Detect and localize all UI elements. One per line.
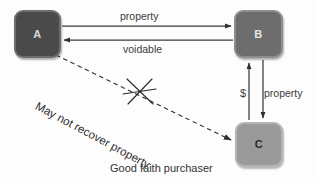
edge-label-property-top: property [120,11,159,22]
node-b[interactable]: B [234,10,283,58]
node-b-label: B [254,29,262,40]
diagram-canvas: A B C property voidable $ property May n… [0,0,318,182]
edge-label-property-right: property [264,88,303,99]
edge-label-dollar: $ [240,88,246,99]
node-c[interactable]: C [235,122,283,167]
node-c-label: C [255,139,263,150]
blocked-strike-icon [123,79,156,104]
edge-label-voidable: voidable [123,44,162,55]
node-a-label: A [33,29,41,40]
caption-good-faith-purchaser: Good faith purchaser [110,163,213,174]
node-a[interactable]: A [14,10,61,58]
